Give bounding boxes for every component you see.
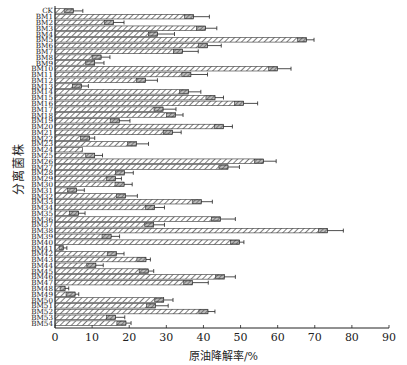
bar-sd-box <box>110 119 119 123</box>
bar-sd-box <box>180 90 189 94</box>
x-axis-label: 原油降解率/% <box>0 347 407 363</box>
bar-sd-box <box>184 281 193 285</box>
x-tick-label: 40 <box>196 331 210 344</box>
bar-sd-box <box>196 26 205 30</box>
x-tick-label: 50 <box>234 331 248 344</box>
bar <box>55 107 163 112</box>
bar <box>55 147 82 152</box>
category-label: BM54 <box>31 319 53 328</box>
bar-sd-box <box>68 188 77 192</box>
bar <box>55 309 208 314</box>
bar <box>55 269 148 274</box>
x-tick-label: 80 <box>345 331 359 344</box>
bar-sd-box <box>59 246 63 250</box>
bar <box>55 118 119 123</box>
bar-sd-box <box>163 131 172 135</box>
bar-sd-box <box>106 316 115 320</box>
bar <box>55 159 264 164</box>
bar-sd-box <box>66 292 75 296</box>
bar <box>55 95 215 100</box>
bar <box>55 298 164 303</box>
bar <box>55 228 327 233</box>
bar <box>55 49 182 54</box>
bars-group: CKBM1BM2BM3BM4BM5BM6BM7BM8BM9BM10BM11BM1… <box>31 6 343 327</box>
bar-sd-box <box>212 217 221 221</box>
bar-sd-box <box>107 252 116 256</box>
bar <box>55 130 172 135</box>
bar-sd-box <box>173 50 182 54</box>
bar <box>55 194 126 199</box>
bar-sd-box <box>86 61 95 65</box>
bar <box>55 275 225 280</box>
bar-row: BM21 <box>31 128 181 137</box>
bar <box>55 72 191 77</box>
bar-sd-box <box>199 44 208 48</box>
bar-sd-box <box>128 142 137 146</box>
bar-sd-box <box>297 38 306 42</box>
bar-sd-box <box>106 177 115 181</box>
bar <box>55 142 137 147</box>
bar-sd-box <box>69 211 78 215</box>
degradation-bar-chart: CKBM1BM2BM3BM4BM5BM6BM7BM8BM9BM10BM11BM1… <box>0 0 407 365</box>
bar-sd-box <box>115 183 124 187</box>
bar <box>55 170 124 175</box>
bar-sd-box <box>199 310 208 314</box>
bar-sd-box <box>87 264 96 268</box>
bar <box>55 101 244 106</box>
bar-sd-box <box>102 235 111 239</box>
bar <box>55 66 278 71</box>
bar-sd-box <box>137 78 146 82</box>
bar-sd-box <box>92 55 101 59</box>
bar-sd-box <box>206 96 215 100</box>
x-tick-label: 90 <box>382 331 396 344</box>
bar-sd-box <box>235 102 244 106</box>
bar <box>55 199 201 204</box>
bar-sd-box <box>137 258 146 262</box>
bar <box>55 223 154 228</box>
bar-sd-box <box>147 304 156 308</box>
bar-sd-box <box>64 9 73 13</box>
bar <box>55 257 146 262</box>
bar <box>55 124 223 129</box>
bar-sd-box <box>104 21 113 25</box>
x-tick-label: 10 <box>85 331 99 344</box>
bar-sd-box <box>216 275 225 279</box>
bar-row: BM54 <box>31 319 131 328</box>
bar-sd-box <box>219 165 228 169</box>
bar-sd-box <box>167 113 176 117</box>
bar-sd-box <box>182 73 191 77</box>
bar <box>55 90 189 95</box>
bar <box>55 38 306 43</box>
bar-sd-box <box>148 32 157 36</box>
bar <box>55 303 156 308</box>
y-axis-label: 分离菌株 <box>2 140 32 200</box>
bar <box>55 26 205 31</box>
x-tick-label: 30 <box>159 331 173 344</box>
bar-sd-box <box>192 200 201 204</box>
bar-sd-box <box>145 223 154 227</box>
bar-sd-box <box>214 125 223 129</box>
bar-sd-box <box>81 136 90 140</box>
x-tick-label: 60 <box>271 331 285 344</box>
bar-sd-box <box>184 15 193 19</box>
bar-sd-box <box>115 171 124 175</box>
bar <box>55 321 126 326</box>
bar-sd-box <box>72 84 81 88</box>
bar-sd-box <box>145 206 154 210</box>
bar <box>55 240 239 245</box>
bar <box>55 280 193 285</box>
bar-sd-box <box>86 154 95 158</box>
bar <box>55 32 157 37</box>
bar <box>55 165 228 170</box>
x-tick-label: 70 <box>308 331 322 344</box>
bar <box>55 217 221 222</box>
x-tick-label: 0 <box>52 331 59 344</box>
bar-sd-box <box>139 269 148 273</box>
chart-canvas: CKBM1BM2BM3BM4BM5BM6BM7BM8BM9BM10BM11BM1… <box>0 0 407 365</box>
bar-sd-box <box>255 159 264 163</box>
bar-sd-box <box>318 229 327 233</box>
bar-sd-box <box>117 194 126 198</box>
y-axis-label-text: 分离菌株 <box>9 134 26 204</box>
bar <box>55 43 208 48</box>
bar <box>55 14 193 19</box>
